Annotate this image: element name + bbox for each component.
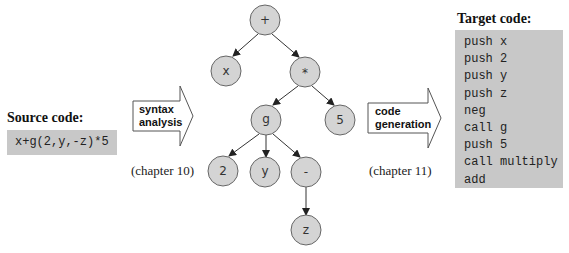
- tree-node-minus-label: -: [304, 165, 308, 179]
- syntax-chapter-caption: (chapter 10): [131, 163, 194, 179]
- tree-edges: [229, 34, 334, 215]
- syntax-analysis-label: syntax analysis: [139, 103, 182, 129]
- code-generation-label-line2: generation: [375, 118, 431, 131]
- syntax-analysis-label-line1: syntax: [139, 103, 182, 116]
- tree-node-x-label: x: [222, 64, 229, 78]
- tree-node-two-label: 2: [219, 164, 227, 178]
- tree-node-times-label: *: [302, 66, 308, 80]
- code-generation-label-line1: code: [375, 105, 431, 118]
- syntax-tree-diagram: + x * g 5 2 y - z: [0, 0, 569, 253]
- tree-node-g-label: g: [262, 112, 270, 126]
- tree-node-y-label: y: [261, 164, 268, 178]
- syntax-analysis-label-line2: analysis: [139, 116, 182, 129]
- tree-node-five-label: 5: [336, 113, 344, 127]
- codegen-chapter-caption: (chapter 11): [369, 163, 432, 179]
- tree-node-z-label: z: [303, 223, 309, 237]
- code-generation-label: code generation: [375, 105, 431, 131]
- tree-node-plus-label: +: [260, 13, 270, 27]
